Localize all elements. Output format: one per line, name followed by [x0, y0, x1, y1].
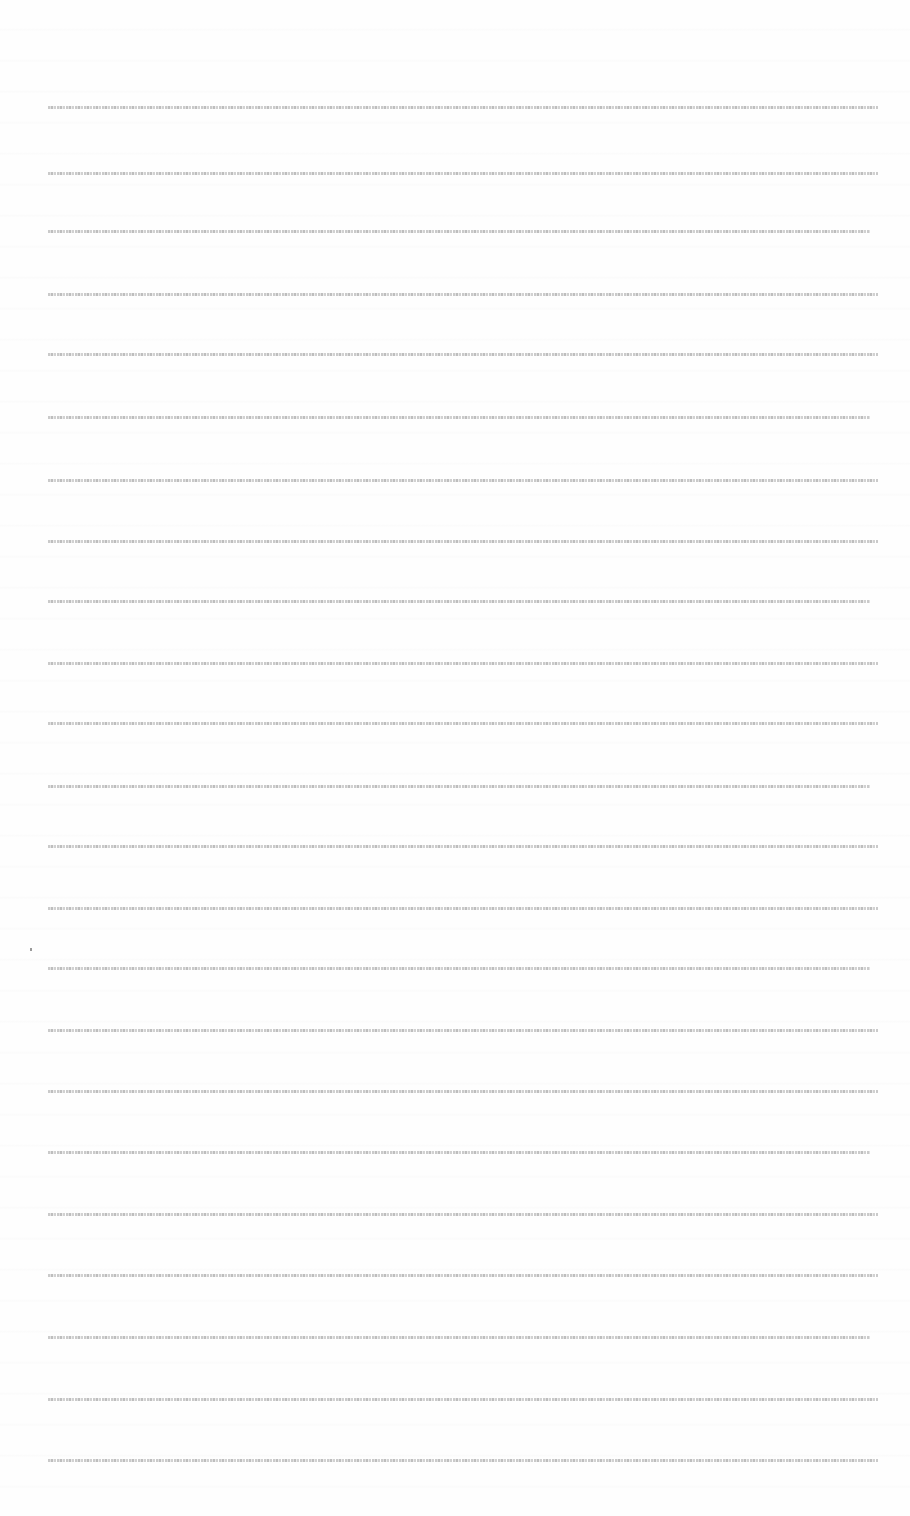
text-line [48, 353, 878, 356]
document-page [0, 0, 910, 1516]
text-line [48, 1090, 878, 1093]
text-line [48, 540, 878, 543]
text-line [48, 845, 878, 848]
text-line [48, 1151, 870, 1154]
text-line [48, 785, 870, 788]
text-line [48, 907, 878, 910]
text-line [48, 1029, 878, 1032]
stray-mark [30, 948, 32, 951]
text-line [48, 1336, 870, 1339]
text-line [48, 293, 878, 296]
text-line [48, 600, 870, 603]
bleed-through-texture [0, 0, 910, 1516]
text-line [48, 106, 878, 109]
text-line [48, 1398, 878, 1401]
text-line [48, 1213, 878, 1216]
text-line [48, 967, 870, 970]
text-line [48, 416, 870, 419]
text-line [48, 479, 878, 482]
text-line [48, 230, 870, 233]
text-line [48, 1274, 878, 1277]
text-line [48, 662, 878, 665]
text-line [48, 722, 878, 725]
text-line [48, 1459, 878, 1462]
text-line [48, 172, 878, 175]
